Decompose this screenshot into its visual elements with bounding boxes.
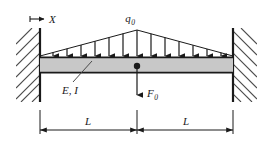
dimension-label-right: L — [182, 115, 189, 127]
dimension-label-left: L — [84, 115, 91, 127]
material-label: E, I — [61, 84, 79, 96]
diagram-canvas: X — [0, 0, 274, 143]
x-axis-label: X — [48, 13, 57, 25]
beam-loading-diagram: X — [0, 0, 274, 143]
